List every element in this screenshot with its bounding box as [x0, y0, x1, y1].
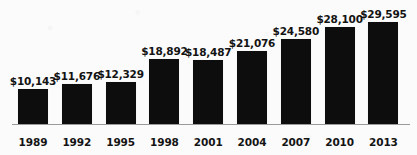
- bar-group: $29,5952013: [368, 0, 398, 155]
- x-axis-line: [12, 124, 410, 125]
- x-axis-label-2001: 2001: [194, 136, 223, 148]
- bar-group: $28,1002010: [325, 0, 355, 155]
- bar-value-label-2007: $24,580: [273, 25, 319, 37]
- x-axis-label-1992: 1992: [62, 136, 91, 148]
- bar-value-label-1989: $10,143: [10, 75, 56, 87]
- bar-group: $11,6761992: [62, 0, 92, 155]
- bar-chart: $10,1431989$11,6761992$12,3291995$18,892…: [0, 0, 417, 155]
- bar-group: $21,0762004: [237, 0, 267, 155]
- plot-area: $10,1431989$11,6761992$12,3291995$18,892…: [0, 0, 417, 155]
- bar-group: $18,4872001: [193, 0, 223, 155]
- bar-2007[interactable]: [281, 39, 311, 124]
- bar-value-label-2001: $18,487: [185, 46, 231, 58]
- bar-2013[interactable]: [368, 22, 398, 124]
- bar-value-label-2004: $21,076: [229, 37, 275, 49]
- bar-group: $10,1431989: [18, 0, 48, 155]
- bar-group: $12,3291995: [106, 0, 136, 155]
- bar-value-label-2013: $29,595: [360, 8, 406, 20]
- x-axis-label-2007: 2007: [281, 136, 310, 148]
- x-axis-label-2013: 2013: [369, 136, 398, 148]
- x-axis-label-1995: 1995: [106, 136, 135, 148]
- bar-value-label-2010: $28,100: [316, 13, 362, 25]
- bar-value-label-1992: $11,676: [54, 70, 100, 82]
- bar-group: $24,5802007: [281, 0, 311, 155]
- bar-1998[interactable]: [149, 59, 179, 124]
- bar-2001[interactable]: [193, 60, 223, 124]
- bar-1992[interactable]: [62, 84, 92, 124]
- bar-group: $18,8921998: [149, 0, 179, 155]
- bar-2004[interactable]: [237, 51, 267, 124]
- x-axis-label-2004: 2004: [238, 136, 267, 148]
- bar-2010[interactable]: [325, 27, 355, 124]
- x-axis-label-1998: 1998: [150, 136, 179, 148]
- bar-value-label-1998: $18,892: [141, 45, 187, 57]
- bar-value-label-1995: $12,329: [97, 68, 143, 80]
- bar-1995[interactable]: [106, 82, 136, 124]
- x-axis-label-2010: 2010: [325, 136, 354, 148]
- bar-1989[interactable]: [18, 89, 48, 124]
- x-axis-label-1989: 1989: [19, 136, 48, 148]
